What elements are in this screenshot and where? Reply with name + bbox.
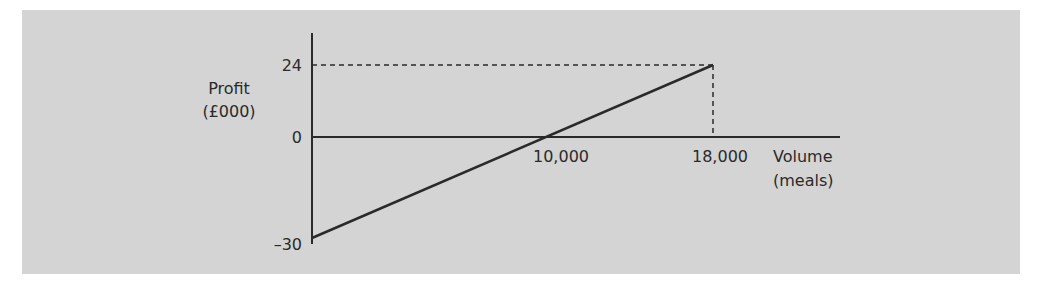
y-axis-label-line2: (£000) <box>202 102 255 121</box>
x-tick-18000: 18,000 <box>692 147 748 166</box>
y-tick-minus-30: –30 <box>274 235 302 254</box>
x-tick-10000: 10,000 <box>533 147 589 166</box>
profit-volume-chart: 24 0 –30 Profit (£000) 10,000 18,000 Vol… <box>0 0 1042 290</box>
x-axis-label-line2: (meals) <box>773 171 834 190</box>
profit-line <box>312 65 713 238</box>
x-axis-label-line1: Volume <box>773 147 833 166</box>
y-tick-0: 0 <box>292 128 302 147</box>
y-axis-label-line1: Profit <box>208 79 250 98</box>
y-tick-24: 24 <box>282 56 302 75</box>
